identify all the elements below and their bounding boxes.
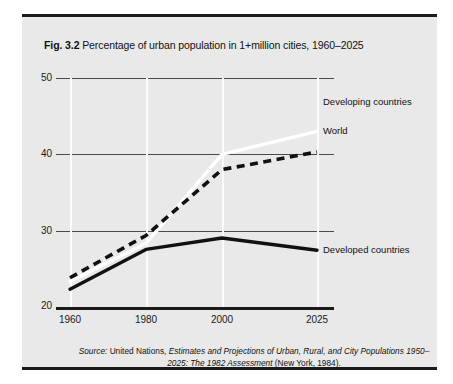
source-publisher: United Nations,	[110, 346, 167, 356]
chart-plot-area: 50 40 30 20 1960 1980 2000 2025 Developi…	[70, 78, 317, 307]
source-title-line1: Estimates and Projections of Urban, Rura…	[169, 346, 404, 356]
chart-series-svg	[56, 64, 356, 324]
series-label-developed: Developed countries	[323, 244, 410, 255]
figure-caption-text: Percentage of urban population in 1+mill…	[82, 39, 363, 51]
series-label-developing: Developing countries	[323, 96, 412, 107]
series-line-developing	[70, 152, 317, 278]
figure-caption: Fig. 3.2 Percentage of urban population …	[44, 39, 434, 51]
source-label: Source:	[79, 346, 108, 356]
source-suffix: (New York, 1984).	[275, 358, 341, 368]
figure-card: Fig. 3.2 Percentage of urban population …	[22, 14, 437, 370]
source-note: Source: United Nations, Estimates and Pr…	[74, 346, 434, 369]
ytick-label-40: 40	[26, 148, 52, 159]
ytick-label-50: 50	[26, 72, 52, 83]
ytick-label-20: 20	[26, 300, 52, 311]
series-label-world: World	[323, 125, 348, 136]
figure-number: Fig. 3.2	[44, 39, 79, 51]
ytick-label-30: 30	[26, 225, 52, 236]
